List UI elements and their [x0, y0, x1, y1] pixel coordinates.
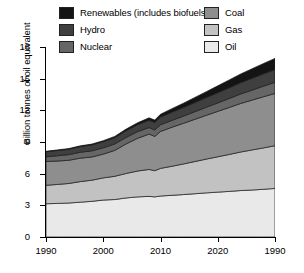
legend-label-coal: Coal — [225, 7, 244, 19]
x-tick-label: 2000 — [83, 246, 123, 256]
legend-swatch-gas — [204, 24, 219, 36]
y-tick-label: 12 — [19, 105, 30, 114]
legend-item-coal: Coal — [204, 7, 244, 19]
stacked-area-series — [46, 47, 275, 237]
y-tick-mark — [40, 237, 45, 238]
stacked-area-chart: Renewables (includes biofuels) Hydro Nuc… — [0, 0, 304, 273]
y-tick-mark — [40, 47, 45, 48]
y-tick-label: 3 — [25, 200, 30, 209]
legend-swatch-coal — [204, 7, 219, 19]
x-tick-mark — [103, 237, 104, 242]
y-tick-label: 18 — [19, 42, 30, 51]
x-tick-mark — [161, 237, 162, 242]
x-tick-mark — [275, 237, 276, 242]
x-tick-mark — [46, 237, 47, 242]
x-tick-label: 2010 — [141, 246, 181, 256]
legend-label-renewables: Renewables (includes biofuels) — [80, 7, 209, 19]
x-tick-mark — [218, 237, 219, 242]
legend-swatch-renewables — [59, 7, 74, 19]
y-axis-ticks: 0369121518 — [0, 0, 40, 273]
legend-item-renewables: Renewables (includes biofuels) — [59, 7, 209, 19]
y-tick-label: 9 — [25, 137, 30, 146]
legend-label-hydro: Hydro — [80, 24, 105, 36]
y-tick-mark — [40, 79, 45, 80]
legend-swatch-hydro — [59, 24, 74, 36]
y-tick-mark — [40, 205, 45, 206]
x-tick-label: 1990 — [26, 246, 66, 256]
legend-item-gas: Gas — [204, 24, 242, 36]
legend-item-hydro: Hydro — [59, 24, 105, 36]
y-tick-label: 0 — [25, 232, 30, 241]
y-tick-mark — [40, 110, 45, 111]
y-tick-mark — [40, 174, 45, 175]
x-tick-label: 1990 — [255, 246, 295, 256]
y-tick-label: 6 — [25, 169, 30, 178]
legend-label-gas: Gas — [225, 24, 242, 36]
x-tick-label: 2020 — [198, 246, 238, 256]
plot-area — [46, 47, 275, 237]
y-tick-mark — [40, 142, 45, 143]
y-tick-label: 15 — [19, 74, 30, 83]
